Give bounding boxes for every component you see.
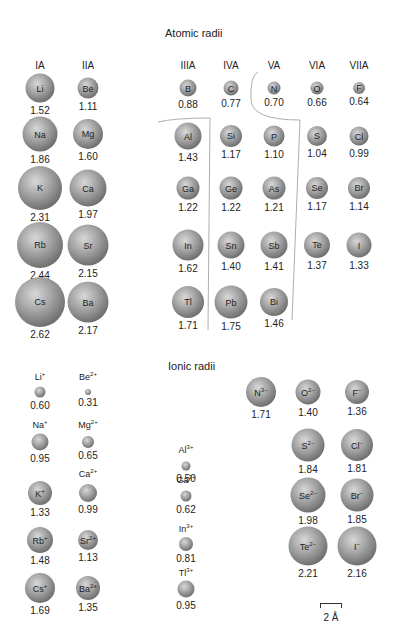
pencil-annotation-lines bbox=[0, 0, 395, 631]
